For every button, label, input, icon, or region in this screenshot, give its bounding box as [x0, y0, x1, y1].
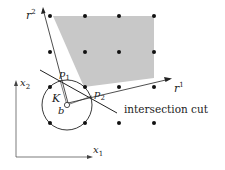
label-intersection-cut: intersection cut	[124, 103, 209, 115]
segment-b-p2	[67, 96, 92, 105]
label-r2: r2	[26, 8, 36, 22]
label-b: b	[58, 105, 64, 116]
segment-b-p1	[60, 80, 67, 105]
axis-x1-arrowhead	[87, 155, 93, 159]
label-x2: x2	[20, 77, 30, 91]
label-K: K	[51, 92, 61, 105]
intersection-cut-diagram: r2 r1 x2 x1 p1 p2 K b intersection cut	[0, 0, 225, 170]
label-p2: p2	[94, 88, 105, 102]
label-p1: p1	[59, 68, 70, 82]
point-b	[64, 102, 69, 107]
label-x1: x1	[93, 144, 103, 158]
label-r1: r1	[174, 81, 184, 95]
ray-r2-arrowhead	[41, 7, 46, 14]
ray-r1-arrowhead	[164, 77, 172, 82]
axis-x2-arrowhead	[14, 80, 18, 86]
